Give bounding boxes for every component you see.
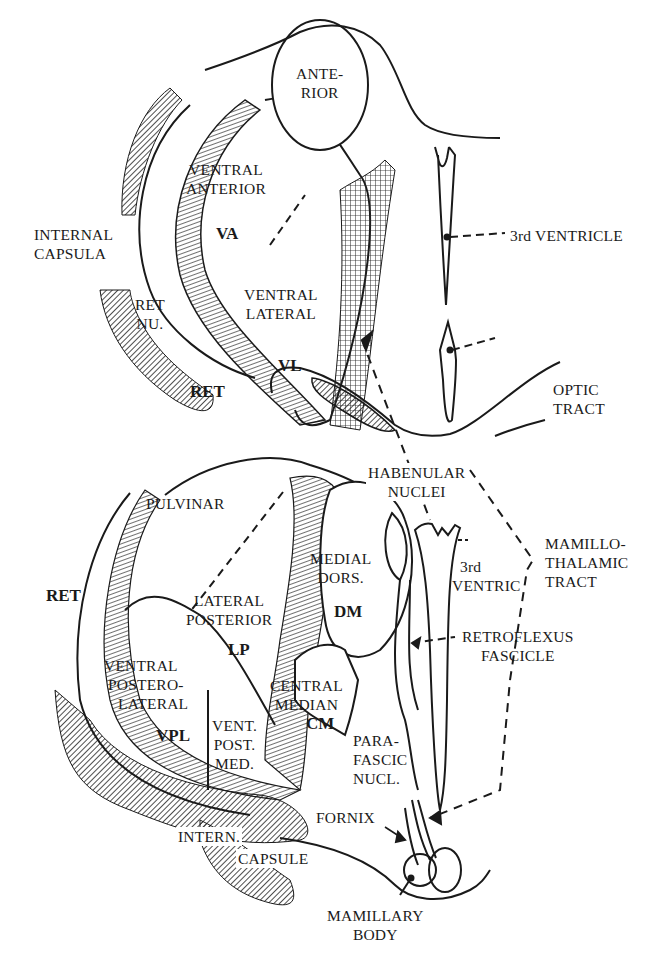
label-habenular-nuclei: HABENULAR NUCLEI bbox=[366, 463, 467, 501]
abbr-vpl: VPL bbox=[156, 726, 190, 745]
label-internal-capsula: INTERNAL CAPSULA bbox=[34, 225, 113, 263]
label-ventral-anterior: VENTRAL ANTERIOR bbox=[186, 160, 266, 198]
label-retroflexus-fascicle: RETROFLEXUS FASCICLE bbox=[462, 627, 574, 665]
label-mamillary-body: MAMILLARY BODY bbox=[327, 906, 424, 944]
abbr-vl: VL bbox=[278, 356, 302, 375]
abbr-ret-lower: RET bbox=[46, 586, 81, 605]
abbr-dm: DM bbox=[334, 602, 362, 621]
label-ventral-posterolateral: VENTRAL POSTERO- LATERAL bbox=[104, 656, 188, 713]
label-fornix: FORNIX bbox=[316, 808, 375, 827]
label-lateral-posterior: LATERAL POSTERIOR bbox=[186, 591, 272, 629]
label-third-ventric: 3rd VENTRIC bbox=[452, 557, 521, 595]
abbr-cm: CM bbox=[306, 714, 334, 733]
abbr-lp: LP bbox=[228, 640, 250, 659]
thalamus-diagram: ANTE- RIOR VENTRAL ANTERIOR VA INTERNAL … bbox=[0, 0, 671, 969]
label-intern-capsule: INTERN. CAPSULE bbox=[176, 827, 310, 868]
label-third-ventricle: 3rd VENTRICLE bbox=[510, 226, 623, 245]
abbr-va: VA bbox=[216, 224, 238, 243]
label-central-median: CENTRAL MEDIAN bbox=[270, 676, 343, 714]
label-ventral-lateral: VENTRAL LATERAL bbox=[244, 285, 318, 323]
label-vent-post-med: VENT. POST. MED. bbox=[212, 716, 257, 773]
label-medial-dors: MEDIAL DORS. bbox=[310, 549, 371, 587]
label-optic-tract: OPTIC TRACT bbox=[553, 380, 605, 418]
label-mamillothalamic-tract: MAMILLO- THALAMIC TRACT bbox=[545, 534, 628, 591]
label-anterior: ANTE- RIOR bbox=[296, 64, 344, 102]
label-ret-nu: RET NU. bbox=[135, 295, 165, 333]
label-pulvinar: PULVINAR bbox=[146, 494, 225, 513]
abbr-ret-upper: RET bbox=[190, 382, 225, 401]
label-parafascic-nucl: PARA- FASCIC NUCL. bbox=[353, 731, 407, 788]
